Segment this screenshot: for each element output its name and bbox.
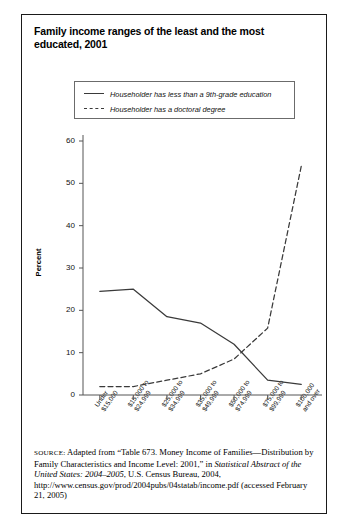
figure-frame: Family income ranges of the least and th… bbox=[21, 14, 327, 514]
source-label: SOURCE: bbox=[34, 449, 65, 457]
series-line-0 bbox=[100, 289, 301, 384]
series-line-1 bbox=[100, 166, 301, 386]
chart-canvas bbox=[22, 15, 328, 515]
plot-area: Percent 0102030405060 Under$15,000$15,00… bbox=[22, 15, 328, 515]
source-note: SOURCE: Adapted from “Table 673. Money I… bbox=[34, 447, 318, 501]
